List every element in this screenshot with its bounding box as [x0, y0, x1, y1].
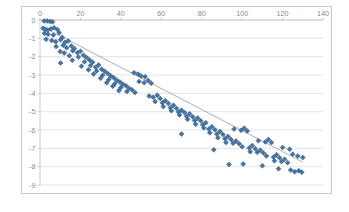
y-tick-label-2: -2 [29, 52, 35, 61]
data-point [76, 55, 81, 60]
data-point [280, 145, 285, 150]
data-point [285, 160, 290, 165]
data-point [49, 38, 54, 43]
y-tick-label-4: -4 [29, 89, 35, 98]
x-tick-label-7: 140 [317, 9, 329, 18]
data-point [256, 138, 261, 143]
chart-container: 0-1-2-3-4-5-6-7-8-9020406080100120140 [21, 6, 332, 194]
x-tick-label-4: 80 [198, 9, 206, 18]
scatter-plot: 0-1-2-3-4-5-6-7-8-9020406080100120140 [22, 7, 331, 193]
y-tick-label-8: -8 [29, 162, 35, 171]
y-tick-label-0: 0 [32, 16, 36, 25]
y-tick-label-7: -7 [29, 144, 35, 153]
data-point [70, 58, 75, 63]
data-point [295, 154, 300, 159]
data-point [227, 162, 232, 167]
data-point [54, 44, 59, 49]
data-point [300, 155, 305, 160]
x-tick-label-5: 100 [236, 9, 248, 18]
x-tick-label-1: 20 [76, 9, 84, 18]
x-tick-label-3: 60 [157, 9, 165, 18]
data-point [44, 37, 49, 42]
data-point [137, 79, 142, 84]
data-point [287, 147, 292, 152]
data-point [86, 67, 91, 72]
data-point [260, 163, 265, 168]
data-point [276, 166, 281, 171]
y-tick-label-1: -1 [29, 34, 35, 43]
data-point [53, 39, 58, 44]
series-0 [41, 18, 306, 174]
data-point [241, 161, 246, 166]
data-point [158, 96, 163, 101]
y-tick-label-3: -3 [29, 71, 35, 80]
data-point [179, 132, 184, 137]
y-tick-label-6: -6 [29, 126, 35, 135]
x-tick-label-2: 40 [117, 9, 125, 18]
y-tick-label-9: -9 [29, 181, 35, 190]
data-point [79, 64, 84, 69]
data-point [58, 61, 63, 66]
y-tick-label-5: -5 [29, 107, 35, 116]
data-point [67, 53, 72, 58]
x-tick-label-6: 120 [277, 9, 289, 18]
x-tick-label-0: 0 [38, 9, 42, 18]
